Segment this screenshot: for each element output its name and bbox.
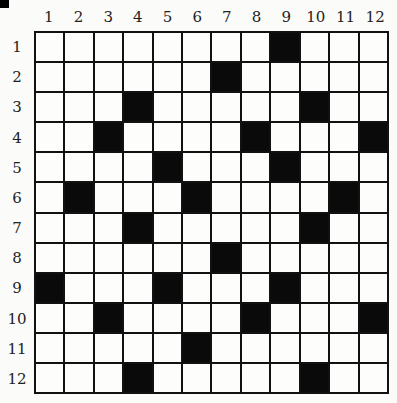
white-cell[interactable] <box>271 304 298 332</box>
white-cell[interactable] <box>183 93 210 121</box>
white-cell[interactable] <box>95 183 122 211</box>
white-cell[interactable] <box>301 153 328 181</box>
white-cell[interactable] <box>360 334 387 362</box>
white-cell[interactable] <box>95 274 122 302</box>
white-cell[interactable] <box>95 33 122 61</box>
white-cell[interactable] <box>124 123 151 151</box>
white-cell[interactable] <box>330 334 357 362</box>
white-cell[interactable] <box>65 364 92 392</box>
white-cell[interactable] <box>271 123 298 151</box>
white-cell[interactable] <box>154 63 181 91</box>
white-cell[interactable] <box>65 214 92 242</box>
white-cell[interactable] <box>271 63 298 91</box>
white-cell[interactable] <box>36 214 63 242</box>
white-cell[interactable] <box>360 244 387 272</box>
white-cell[interactable] <box>124 153 151 181</box>
white-cell[interactable] <box>36 304 63 332</box>
white-cell[interactable] <box>301 33 328 61</box>
white-cell[interactable] <box>183 274 210 302</box>
white-cell[interactable] <box>360 183 387 211</box>
white-cell[interactable] <box>271 334 298 362</box>
white-cell[interactable] <box>271 214 298 242</box>
white-cell[interactable] <box>95 364 122 392</box>
white-cell[interactable] <box>212 364 239 392</box>
white-cell[interactable] <box>330 63 357 91</box>
white-cell[interactable] <box>36 123 63 151</box>
white-cell[interactable] <box>65 304 92 332</box>
white-cell[interactable] <box>154 33 181 61</box>
white-cell[interactable] <box>154 123 181 151</box>
white-cell[interactable] <box>95 93 122 121</box>
white-cell[interactable] <box>242 274 269 302</box>
white-cell[interactable] <box>183 33 210 61</box>
white-cell[interactable] <box>330 153 357 181</box>
white-cell[interactable] <box>95 214 122 242</box>
white-cell[interactable] <box>36 93 63 121</box>
white-cell[interactable] <box>65 123 92 151</box>
white-cell[interactable] <box>212 304 239 332</box>
white-cell[interactable] <box>95 153 122 181</box>
white-cell[interactable] <box>183 304 210 332</box>
white-cell[interactable] <box>330 123 357 151</box>
white-cell[interactable] <box>65 93 92 121</box>
white-cell[interactable] <box>330 304 357 332</box>
white-cell[interactable] <box>212 214 239 242</box>
white-cell[interactable] <box>65 63 92 91</box>
white-cell[interactable] <box>212 274 239 302</box>
white-cell[interactable] <box>154 364 181 392</box>
white-cell[interactable] <box>36 63 63 91</box>
white-cell[interactable] <box>330 93 357 121</box>
white-cell[interactable] <box>124 63 151 91</box>
white-cell[interactable] <box>36 33 63 61</box>
white-cell[interactable] <box>36 244 63 272</box>
white-cell[interactable] <box>330 274 357 302</box>
white-cell[interactable] <box>301 63 328 91</box>
white-cell[interactable] <box>301 274 328 302</box>
white-cell[interactable] <box>212 33 239 61</box>
white-cell[interactable] <box>95 244 122 272</box>
white-cell[interactable] <box>65 274 92 302</box>
white-cell[interactable] <box>36 364 63 392</box>
white-cell[interactable] <box>271 364 298 392</box>
white-cell[interactable] <box>154 214 181 242</box>
white-cell[interactable] <box>301 334 328 362</box>
white-cell[interactable] <box>330 364 357 392</box>
white-cell[interactable] <box>124 183 151 211</box>
white-cell[interactable] <box>301 183 328 211</box>
white-cell[interactable] <box>95 334 122 362</box>
white-cell[interactable] <box>301 123 328 151</box>
white-cell[interactable] <box>154 304 181 332</box>
white-cell[interactable] <box>154 183 181 211</box>
white-cell[interactable] <box>330 214 357 242</box>
white-cell[interactable] <box>242 153 269 181</box>
white-cell[interactable] <box>242 63 269 91</box>
white-cell[interactable] <box>183 244 210 272</box>
white-cell[interactable] <box>360 214 387 242</box>
white-cell[interactable] <box>242 33 269 61</box>
white-cell[interactable] <box>271 183 298 211</box>
white-cell[interactable] <box>212 93 239 121</box>
white-cell[interactable] <box>65 153 92 181</box>
white-cell[interactable] <box>154 93 181 121</box>
white-cell[interactable] <box>242 183 269 211</box>
white-cell[interactable] <box>360 93 387 121</box>
white-cell[interactable] <box>212 123 239 151</box>
white-cell[interactable] <box>124 244 151 272</box>
white-cell[interactable] <box>124 33 151 61</box>
white-cell[interactable] <box>271 244 298 272</box>
white-cell[interactable] <box>65 33 92 61</box>
white-cell[interactable] <box>360 33 387 61</box>
white-cell[interactable] <box>360 364 387 392</box>
white-cell[interactable] <box>271 93 298 121</box>
white-cell[interactable] <box>330 33 357 61</box>
white-cell[interactable] <box>301 244 328 272</box>
white-cell[interactable] <box>183 63 210 91</box>
white-cell[interactable] <box>65 244 92 272</box>
white-cell[interactable] <box>330 244 357 272</box>
white-cell[interactable] <box>183 123 210 151</box>
white-cell[interactable] <box>95 63 122 91</box>
white-cell[interactable] <box>212 334 239 362</box>
white-cell[interactable] <box>124 274 151 302</box>
white-cell[interactable] <box>242 214 269 242</box>
white-cell[interactable] <box>36 153 63 181</box>
